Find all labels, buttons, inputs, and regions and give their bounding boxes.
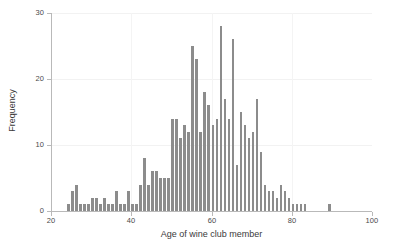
histogram-bar: [296, 204, 299, 211]
histogram-bar: [304, 204, 307, 211]
histogram-bar: [115, 191, 118, 211]
histogram-bar: [67, 204, 70, 211]
histogram-bar: [236, 165, 239, 211]
x-tick-label-80: 80: [277, 217, 307, 225]
histogram-bar: [107, 204, 110, 211]
histogram-bar: [240, 112, 243, 211]
plot-area: [51, 13, 372, 211]
histogram-bar: [244, 125, 247, 211]
histogram-bar: [224, 99, 227, 211]
histogram-bar: [300, 204, 303, 211]
histogram-bar: [79, 204, 82, 211]
histogram-bar: [131, 204, 134, 211]
histogram-bar: [276, 198, 279, 211]
histogram-bar: [272, 191, 275, 211]
histogram-bar: [228, 119, 231, 211]
histogram-bar: [252, 132, 255, 211]
histogram-bar: [248, 138, 251, 211]
histogram-bar: [288, 198, 291, 211]
histogram-bar: [91, 198, 94, 211]
y-tick-label-30: 30: [20, 9, 44, 17]
histogram-bar: [83, 204, 86, 211]
histogram-bar: [139, 185, 142, 211]
bars-layer: [51, 13, 372, 211]
histogram-bar: [119, 204, 122, 211]
histogram-bar: [195, 59, 198, 211]
histogram-bar: [151, 171, 154, 211]
histogram-bar: [216, 119, 219, 211]
histogram-bar: [256, 99, 259, 211]
histogram-bar: [123, 204, 126, 211]
histogram-bar: [159, 178, 162, 211]
histogram-bar: [260, 152, 263, 211]
histogram-bar: [179, 138, 182, 211]
histogram-bar: [292, 204, 295, 211]
x-tick-label-40: 40: [116, 217, 146, 225]
histogram-bar: [167, 178, 170, 211]
histogram-bar: [127, 191, 130, 211]
histogram-bar: [103, 198, 106, 211]
histogram-bar: [163, 178, 166, 211]
histogram-bar: [280, 185, 283, 211]
histogram-bar: [328, 204, 331, 211]
histogram-bar: [95, 198, 98, 211]
histogram-bar: [135, 204, 138, 211]
histogram-bar: [147, 185, 150, 211]
histogram-bar: [284, 191, 287, 211]
histogram-bar: [220, 26, 223, 211]
histogram-bar: [71, 191, 74, 211]
x-axis-title: Age of wine club member: [51, 229, 372, 240]
histogram-bar: [212, 125, 215, 211]
x-tick-label-20: 20: [36, 217, 66, 225]
y-tick-label-10: 10: [20, 141, 44, 149]
histogram-chart: 30 20 10 0 20 40 60 80 100 Age of wine c…: [0, 0, 402, 248]
histogram-bar: [87, 204, 90, 211]
histogram-bar: [143, 158, 146, 211]
histogram-bar: [199, 132, 202, 211]
histogram-bar: [187, 132, 190, 211]
histogram-bar: [232, 39, 235, 211]
y-axis-title: Frequency: [7, 66, 18, 156]
x-tick-label-100: 100: [357, 217, 387, 225]
histogram-bar: [264, 185, 267, 211]
histogram-bar: [207, 105, 210, 211]
y-tick-label-0: 0: [20, 207, 44, 215]
histogram-bar: [99, 204, 102, 211]
y-tick-label-20: 20: [20, 75, 44, 83]
histogram-bar: [111, 204, 114, 211]
histogram-bar: [203, 92, 206, 211]
histogram-bar: [155, 171, 158, 211]
histogram-bar: [171, 119, 174, 211]
histogram-bar: [191, 46, 194, 211]
histogram-bar: [183, 125, 186, 211]
histogram-bar: [175, 119, 178, 211]
histogram-bar: [75, 185, 78, 211]
x-tick-label-60: 60: [197, 217, 227, 225]
histogram-bar: [268, 191, 271, 211]
